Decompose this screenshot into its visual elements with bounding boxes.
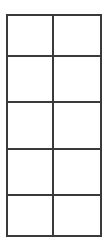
grid-cell-r2-c2	[54, 57, 100, 103]
grid-cell-r5-c1	[8, 196, 54, 235]
grid-cell-r2-c1	[8, 57, 54, 103]
empty-grid-table	[6, 14, 102, 237]
grid-cell-r4-c1	[8, 150, 54, 196]
grid-cell-r3-c1	[8, 103, 54, 150]
grid-cell-r4-c2	[54, 150, 100, 196]
grid-cell-r1-c1	[8, 16, 54, 57]
grid-cell-r5-c2	[54, 196, 100, 235]
grid-cell-r3-c2	[54, 103, 100, 150]
grid-cell-r1-c2	[54, 16, 100, 57]
